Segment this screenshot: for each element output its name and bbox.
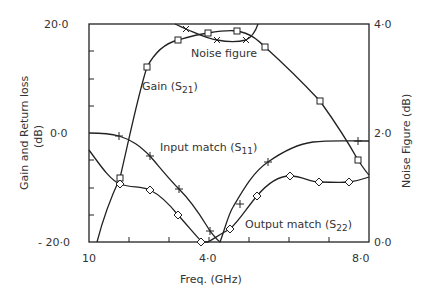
y-right-axis-title: Noise Figure (dB) — [400, 94, 413, 188]
y-left-label-top: 20·0 — [44, 18, 69, 31]
annotation-output-match: Output match (S22) — [245, 218, 352, 233]
annotation-gain: Gain (S21) — [142, 80, 198, 95]
y-left-label-bottom: - 20·0 — [38, 236, 70, 249]
output-match-s22-markers — [116, 172, 353, 246]
x-label-mid: 4·0 — [199, 252, 217, 265]
chart-canvas: 20·0 0·0 - 20·0 4·0 2·0 0·0 10 4·0 8·0 F… — [0, 0, 428, 303]
x-axis-title: Freq. (GHz) — [180, 273, 242, 286]
x-label-left: 10 — [82, 252, 96, 265]
y-left-axis-title: Gain and Return loss — [18, 76, 31, 190]
y-right-label-mid: 2·0 — [374, 127, 392, 140]
y-right-label-top: 4·0 — [374, 18, 392, 31]
y-left-axis-unit: (dB) — [32, 125, 45, 148]
y-right-label-bottom: 0·0 — [374, 236, 392, 249]
annotation-noise-figure: Noise figure — [191, 47, 257, 60]
x-label-right: 8·0 — [352, 252, 370, 265]
x-ticks — [129, 237, 329, 242]
annotation-input-match: Input match (S11) — [160, 141, 257, 156]
gain-s21-curve — [97, 31, 369, 242]
y-left-label-mid: 0·0 — [50, 127, 68, 140]
